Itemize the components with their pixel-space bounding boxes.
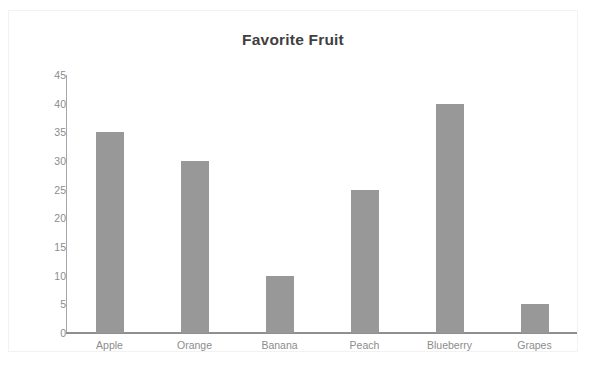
y-axis-tick-labels: 454035302520151050 (17, 75, 66, 333)
bar[interactable] (266, 276, 294, 333)
plot-area: 454035302520151050 (66, 75, 577, 333)
y-tick-label: 40 (26, 98, 66, 110)
x-axis-category-labels: AppleOrangeBananaPeachBlueberryGrapes (67, 339, 577, 351)
bar-slot (152, 75, 237, 333)
y-tick-label: 45 (26, 69, 66, 81)
bar[interactable] (521, 304, 549, 333)
bar-slot (407, 75, 492, 333)
bar-slot (492, 75, 577, 333)
y-tick-label: 0 (26, 327, 66, 339)
x-category-label: Peach (322, 339, 407, 351)
y-tick-label: 10 (26, 270, 66, 282)
x-category-label: Grapes (492, 339, 577, 351)
y-tick-label: 15 (26, 241, 66, 253)
bar[interactable] (181, 161, 209, 333)
y-tick-label: 30 (26, 155, 66, 167)
bar-series (67, 75, 577, 333)
bar-slot (237, 75, 322, 333)
x-category-label: Orange (152, 339, 237, 351)
bar[interactable] (96, 132, 124, 333)
bar-slot (322, 75, 407, 333)
chart-title: Favorite Fruit (9, 31, 577, 49)
bar[interactable] (351, 190, 379, 333)
bar-slot (67, 75, 152, 333)
x-category-label: Apple (67, 339, 152, 351)
x-category-label: Blueberry (407, 339, 492, 351)
y-tick-label: 20 (26, 212, 66, 224)
chart-frame: Favorite Fruit 454035302520151050 AppleO… (8, 10, 578, 352)
y-tick-label: 5 (26, 298, 66, 310)
y-tick-label: 25 (26, 184, 66, 196)
y-tick-label: 35 (26, 126, 66, 138)
x-category-label: Banana (237, 339, 322, 351)
bar[interactable] (436, 104, 464, 333)
